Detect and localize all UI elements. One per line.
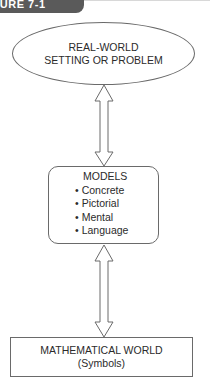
real-world-line1: REAL-WORLD — [68, 41, 138, 54]
math-world-line1: MATHEMATICAL WORLD — [40, 344, 162, 357]
models-item-language: Language — [75, 224, 158, 238]
mathematical-world-node: MATHEMATICAL WORLD (Symbols) — [10, 337, 193, 377]
real-world-line2: SETTING OR PROBLEM — [44, 54, 162, 67]
models-item-concrete: Concrete — [75, 184, 158, 198]
models-item-mental: Mental — [75, 211, 158, 225]
models-list: Concrete Pictorial Mental Language — [49, 184, 158, 238]
math-world-line2: (Symbols) — [78, 357, 125, 370]
double-arrow-icon — [95, 85, 113, 166]
models-node: MODELS Concrete Pictorial Mental Languag… — [48, 166, 159, 244]
models-item-pictorial: Pictorial — [75, 197, 158, 211]
double-arrow-icon — [95, 245, 113, 337]
real-world-node: REAL-WORLD SETTING OR PROBLEM — [12, 22, 195, 85]
models-title: MODELS — [49, 170, 158, 184]
